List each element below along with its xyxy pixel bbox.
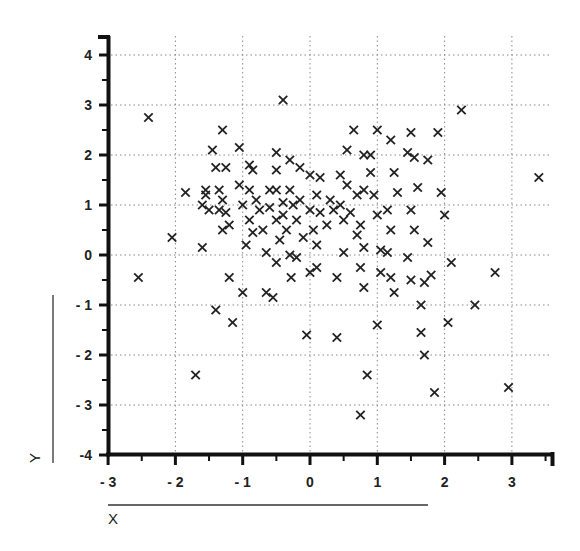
data-point-x-marker bbox=[353, 231, 361, 239]
data-point-x-marker bbox=[376, 268, 384, 276]
data-point-x-marker bbox=[333, 333, 341, 341]
data-point-x-marker bbox=[245, 161, 253, 169]
data-point-x-marker bbox=[407, 276, 415, 284]
data-point-x-marker bbox=[417, 328, 425, 336]
data-point-x-marker bbox=[329, 206, 337, 214]
data-point-x-marker bbox=[272, 166, 280, 174]
y-tick-label: - 1 bbox=[76, 297, 93, 313]
data-point-x-marker bbox=[363, 371, 371, 379]
data-point-x-marker bbox=[373, 321, 381, 329]
data-point-x-marker bbox=[390, 168, 398, 176]
data-point-x-marker bbox=[201, 191, 209, 199]
data-point-x-marker bbox=[259, 226, 267, 234]
data-point-x-marker bbox=[272, 258, 280, 266]
x-tick-label: - 1 bbox=[235, 474, 252, 490]
data-points bbox=[134, 96, 543, 419]
data-point-x-marker bbox=[360, 186, 368, 194]
data-point-x-marker bbox=[437, 188, 445, 196]
grid-lines bbox=[111, 36, 552, 453]
data-point-x-marker bbox=[407, 128, 415, 136]
data-point-x-marker bbox=[279, 96, 287, 104]
data-point-x-marker bbox=[191, 371, 199, 379]
data-point-x-marker bbox=[383, 248, 391, 256]
axes bbox=[98, 36, 554, 466]
x-tick-label: 1 bbox=[373, 474, 381, 490]
data-point-x-marker bbox=[218, 226, 226, 234]
data-point-x-marker bbox=[356, 221, 364, 229]
data-point-x-marker bbox=[336, 171, 344, 179]
data-point-x-marker bbox=[218, 196, 226, 204]
data-point-x-marker bbox=[313, 191, 321, 199]
data-point-x-marker bbox=[262, 288, 270, 296]
data-point-x-marker bbox=[296, 196, 304, 204]
data-point-x-marker bbox=[282, 226, 290, 234]
data-point-x-marker bbox=[242, 241, 250, 249]
y-tick-label: - 2 bbox=[76, 347, 93, 363]
data-point-x-marker bbox=[225, 221, 233, 229]
data-point-x-marker bbox=[323, 221, 331, 229]
data-point-x-marker bbox=[410, 226, 418, 234]
data-point-x-marker bbox=[235, 143, 243, 151]
data-point-x-marker bbox=[360, 283, 368, 291]
data-point-x-marker bbox=[205, 206, 213, 214]
scatter-chart: 43210- 1- 2- 3-4 - 3- 2- 10123 X Y bbox=[0, 0, 580, 551]
data-point-x-marker bbox=[252, 196, 260, 204]
data-point-x-marker bbox=[287, 273, 295, 281]
data-point-x-marker bbox=[447, 258, 455, 266]
data-point-x-marker bbox=[292, 216, 300, 224]
data-point-x-marker bbox=[360, 243, 368, 251]
data-point-x-marker bbox=[353, 191, 361, 199]
data-point-x-marker bbox=[269, 293, 277, 301]
data-point-x-marker bbox=[403, 253, 411, 261]
data-point-x-marker bbox=[144, 113, 152, 121]
y-tick-label: -4 bbox=[80, 447, 93, 463]
data-point-x-marker bbox=[208, 146, 216, 154]
data-point-x-marker bbox=[272, 148, 280, 156]
data-point-x-marker bbox=[272, 186, 280, 194]
data-point-x-marker bbox=[366, 168, 374, 176]
data-point-x-marker bbox=[245, 216, 253, 224]
data-point-x-marker bbox=[299, 233, 307, 241]
data-point-x-marker bbox=[228, 318, 236, 326]
data-point-x-marker bbox=[296, 163, 304, 171]
data-point-x-marker bbox=[276, 236, 284, 244]
y-tick-label: 3 bbox=[84, 97, 92, 113]
data-point-x-marker bbox=[491, 268, 499, 276]
data-point-x-marker bbox=[286, 156, 294, 164]
x-tick-label: - 2 bbox=[167, 474, 184, 490]
data-point-x-marker bbox=[286, 186, 294, 194]
data-point-x-marker bbox=[134, 273, 142, 281]
data-point-x-marker bbox=[424, 156, 432, 164]
y-axis-title: Y bbox=[26, 453, 43, 463]
data-point-x-marker bbox=[198, 201, 206, 209]
x-tick-label: 2 bbox=[441, 474, 449, 490]
data-point-x-marker bbox=[387, 136, 395, 144]
x-tick-label: 3 bbox=[508, 474, 516, 490]
x-tick-label: 0 bbox=[306, 474, 314, 490]
data-point-x-marker bbox=[316, 208, 324, 216]
data-point-x-marker bbox=[272, 216, 280, 224]
y-tick-label: - 3 bbox=[76, 397, 93, 413]
data-point-x-marker bbox=[376, 246, 384, 254]
data-point-x-marker bbox=[333, 273, 341, 281]
y-tick-label: 4 bbox=[84, 47, 92, 63]
data-point-x-marker bbox=[444, 318, 452, 326]
data-point-x-marker bbox=[356, 411, 364, 419]
data-point-x-marker bbox=[387, 273, 395, 281]
data-point-x-marker bbox=[168, 233, 176, 241]
data-point-x-marker bbox=[245, 186, 253, 194]
y-ticks: 43210- 1- 2- 3-4 bbox=[76, 47, 110, 463]
data-point-x-marker bbox=[535, 173, 543, 181]
data-point-x-marker bbox=[212, 163, 220, 171]
data-point-x-marker bbox=[313, 241, 321, 249]
data-point-x-marker bbox=[222, 163, 230, 171]
data-point-x-marker bbox=[222, 208, 230, 216]
data-point-x-marker bbox=[302, 331, 310, 339]
y-tick-label: 1 bbox=[84, 197, 92, 213]
data-point-x-marker bbox=[407, 206, 415, 214]
x-axis-title: X bbox=[108, 510, 118, 527]
data-point-x-marker bbox=[413, 183, 421, 191]
data-point-x-marker bbox=[279, 211, 287, 219]
data-point-x-marker bbox=[212, 306, 220, 314]
data-point-x-marker bbox=[316, 173, 324, 181]
